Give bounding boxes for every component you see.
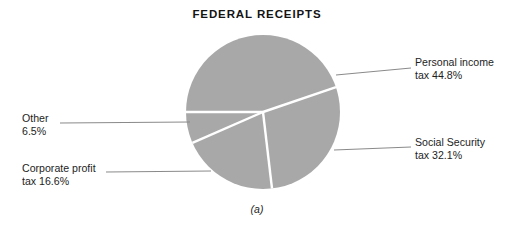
slice-label-social-security-line1: Social Security bbox=[415, 136, 485, 149]
slice-label-corporate-profit-line1: Corporate profit bbox=[22, 162, 96, 175]
leader-line-personal-income bbox=[336, 68, 411, 75]
slice-label-personal-income-line2: tax 44.8% bbox=[415, 69, 494, 82]
slice-label-personal-income-line1: Personal income bbox=[415, 56, 494, 69]
slice-label-other-line1: Other bbox=[22, 112, 49, 125]
leader-line-other bbox=[60, 122, 190, 123]
leader-line-corporate-profit bbox=[106, 171, 211, 172]
slice-label-social-security: Social Security tax 32.1% bbox=[415, 136, 485, 162]
slice-label-other: Other 6.5% bbox=[22, 112, 49, 138]
slice-label-social-security-line2: tax 32.1% bbox=[415, 149, 485, 162]
federal-receipts-pie-figure: FEDERAL RECEIPTS Personal income tax 44.… bbox=[0, 0, 514, 232]
pie-chart-graphic bbox=[0, 0, 514, 232]
figure-caption: (a) bbox=[0, 203, 514, 215]
slice-label-corporate-profit-line2: tax 16.6% bbox=[22, 175, 96, 188]
slice-label-corporate-profit: Corporate profit tax 16.6% bbox=[22, 162, 96, 188]
slice-label-other-line2: 6.5% bbox=[22, 125, 49, 138]
slice-label-personal-income: Personal income tax 44.8% bbox=[415, 56, 494, 82]
leader-line-social-security bbox=[334, 147, 411, 150]
